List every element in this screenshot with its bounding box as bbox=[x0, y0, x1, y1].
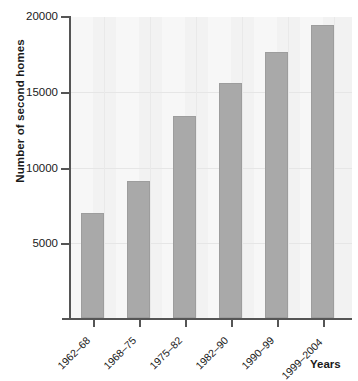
x-tick-label-1968-75: 1968–75 bbox=[101, 334, 138, 371]
y-tick-mark-20000 bbox=[61, 16, 70, 18]
bar-1962-68 bbox=[81, 213, 104, 318]
x-tick-label-1962-68: 1962–68 bbox=[55, 334, 92, 371]
gridline-vertical bbox=[334, 17, 335, 318]
x-tick-mark-1968-75 bbox=[139, 319, 141, 327]
y-tick-mark-15000 bbox=[61, 92, 70, 94]
bar-1999-2004 bbox=[311, 25, 334, 318]
y-tick-label-10000: 10000 bbox=[0, 162, 58, 174]
x-tick-label-1990-99: 1990–99 bbox=[239, 334, 276, 371]
bar-1990-99 bbox=[265, 52, 288, 318]
x-tick-mark-1990-99 bbox=[277, 319, 279, 327]
y-axis-title: Number of second homes bbox=[14, 16, 26, 206]
x-tick-mark-1999-2004 bbox=[323, 319, 325, 327]
x-tick-mark-1975-82 bbox=[185, 319, 187, 327]
y-tick-mark-5000 bbox=[61, 243, 70, 245]
gridline-vertical bbox=[150, 17, 151, 318]
y-tick-label-20000: 20000 bbox=[0, 10, 58, 22]
bar-1975-82 bbox=[173, 116, 196, 318]
x-axis-line bbox=[62, 318, 352, 320]
bar-1968-75 bbox=[127, 181, 150, 318]
gridline-vertical bbox=[288, 17, 289, 318]
gridline-vertical bbox=[104, 17, 105, 318]
x-tick-mark-1982-90 bbox=[231, 319, 233, 327]
x-tick-label-1982-90: 1982–90 bbox=[193, 334, 230, 371]
gridline-horizontal bbox=[70, 243, 352, 244]
bar-chart: Number of second homes 20000 15000 bbox=[0, 0, 358, 381]
x-tick-mark-1962-68 bbox=[93, 319, 95, 327]
x-tick-label-1975-82: 1975–82 bbox=[147, 334, 184, 371]
y-tick-label-15000: 15000 bbox=[0, 86, 58, 98]
plot-area bbox=[70, 17, 352, 318]
gridline-horizontal bbox=[70, 92, 352, 93]
x-axis-title: Years bbox=[310, 358, 341, 370]
gridline-horizontal bbox=[70, 168, 352, 169]
gridline-vertical bbox=[242, 17, 243, 318]
bar-1982-90 bbox=[219, 83, 242, 318]
gridline-vertical bbox=[196, 17, 197, 318]
y-tick-mark-10000 bbox=[61, 168, 70, 170]
y-tick-label-5000: 5000 bbox=[0, 237, 58, 249]
